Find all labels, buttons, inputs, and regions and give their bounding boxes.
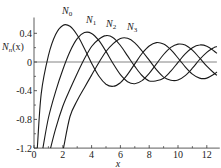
y-tick-label: -0.8 xyxy=(16,114,32,125)
axes: -1.2-0.8-0.400.4024681012 xyxy=(16,18,220,161)
bessel-neumann-chart: -1.2-0.8-0.400.4024681012 N0N1N2N3 Nn(x)… xyxy=(0,0,221,168)
series-label-sub: 1 xyxy=(93,19,97,27)
y-tick-label: -0.4 xyxy=(16,85,32,96)
x-tick-label: 0 xyxy=(32,149,37,160)
curve-n1 xyxy=(43,32,217,148)
x-tick-label: 8 xyxy=(147,149,152,160)
x-tick-label: 2 xyxy=(60,149,65,160)
y-tick-label: -1.2 xyxy=(16,143,32,154)
curves xyxy=(37,25,217,148)
curve-n2 xyxy=(51,36,217,149)
y-tick-label: 0.4 xyxy=(20,28,33,39)
series-label-sub: 0 xyxy=(69,10,73,18)
x-tick-label: 10 xyxy=(173,149,183,160)
x-tick-label: 4 xyxy=(89,149,94,160)
series-label-n2: N2 xyxy=(105,18,117,31)
x-tick-label: 12 xyxy=(202,149,212,160)
series-label-n0: N0 xyxy=(61,5,73,18)
series-label-sub: 2 xyxy=(113,23,117,31)
y-axis-title: Nn(x) xyxy=(1,41,24,54)
curve-n0 xyxy=(37,25,217,148)
y-axis-title-rest: (x) xyxy=(12,41,24,53)
series-label-sub: 3 xyxy=(134,26,138,34)
x-axis-title: x xyxy=(115,158,121,168)
y-tick-label: 0 xyxy=(27,57,32,68)
series-label-n3: N3 xyxy=(126,21,138,34)
series-labels: N0N1N2N3 xyxy=(61,5,138,34)
series-label-n1: N1 xyxy=(85,14,97,27)
